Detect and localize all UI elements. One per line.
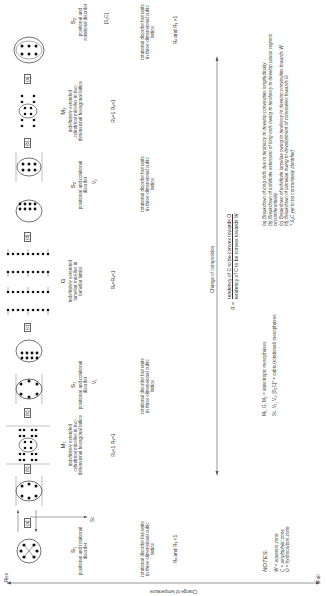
note-anisotropic: M₁, G, M₂ = anisotropic mesophases [262,236,268,416]
notes-phase-groups: M₁, G, M₂ = anisotropic mesophases Sᴄ, V… [262,236,277,416]
notes-title: NOTES: [262,550,268,572]
ratio-definition: R = tendency of C to be convex towards O… [226,213,239,310]
phase-caption-m2: indefinitely extended cylindrical micell… [68,80,84,142]
cylindrical-micelle-icon [6,88,50,134]
phase-label-s1: S₁ [70,530,77,570]
phase-caption-s2b: positional and rotational disorder [78,0,88,44]
transition-label: (c) [24,323,31,332]
micelle-ellipse-icon [12,152,46,182]
note-zone-o: O = hydrocarbon zone [285,482,291,572]
phase-lattice-s2b: rotational disorder but units in three-d… [140,4,156,60]
ratio-lhs: R = [230,302,236,310]
phase-caption-g: indefinitely extended lamellar micelles … [68,256,84,306]
temperature-fall-label: Fall [316,575,321,582]
equilibrium-arrow-icon [16,508,40,532]
transition-label: (d) [24,233,31,243]
phase-label-m1: M₁ [60,430,67,460]
notes-breakdowns: (a) Breakdown of long rods due to tenden… [262,6,296,226]
note-breakdown-b: (b) Breakdown of indefinite extension of… [268,6,279,226]
phase-ratio-s1: Rᵥ and Rᵧ <1 [172,524,178,574]
temperature-axis [0,580,327,586]
transition-label: (a) [24,75,31,85]
transition-label: (b) [24,465,31,475]
phase-ratio-m2: Rᵥ=1 Rᵧ>1 [110,96,116,126]
phase-label-g: G [60,266,67,296]
phase-caption-s1b: positional and rotational disorder [78,360,88,410]
temperature-axis-label: Change of temperature [150,589,197,594]
exit-label-v1: V₁ [92,379,97,384]
exit-label-s2c: [S₂C] [104,13,109,24]
phase-caption-s1: positional and rotational disorder [78,526,88,576]
phase-label-s2: S₂ [70,170,77,200]
phase-caption-m1: indefinitely extended cylindrical micell… [68,414,84,476]
temperature-rise-label: Rise [4,573,9,582]
note-footnote: * S₂C yet to be conclusively identified [290,6,296,226]
phase-label-s1b: S₁ [70,370,77,400]
exit-arrow-icon [30,514,90,520]
phase-ratio-s2b: Rᵥ and Rᵧ >1 [172,8,178,52]
phase-ratio-g: Rᵥ=Rᵧ=1 [110,260,116,300]
micelle-ellipse-icon [12,476,46,506]
micelle-sphere-icon [14,536,44,566]
micelle-ellipse-icon [12,374,46,404]
micelle-dome-icon [12,196,46,226]
notes-zones: W = aqueous zone C = amphiphilic zone O … [274,482,291,572]
phase-label-m2: M₂ [60,96,67,126]
phase-label-s2b: S₂ [70,6,77,36]
cylindrical-micelle-icon [6,422,50,468]
exit-label-v2: V₂ [92,179,97,184]
transition-label: (b) [24,409,31,419]
ratio-numerator: tendency of C to be convex towards O [226,214,233,299]
ratio-denominator: tendency of C to be convex towards W [233,213,239,299]
phase-diagram: Rise Fall Change of temperature S₁ posit… [0,0,327,596]
transition-label: (b) [24,139,31,149]
micelle-dome-icon [12,336,46,366]
exit-label-sc: Sᴄ [90,517,95,522]
micelle-sphere-icon [10,32,48,68]
phase-lattice-s1b: rotational disorder but units in three-d… [140,356,156,416]
phase-ratio-m1: Rᵥ<1 Rᵧ=1 [110,430,116,460]
phase-caption-s2: positional and rotational disorder [78,160,88,210]
note-cubic: Sᴄ, V₁, V₂, [S₂C]* = cubic (rotational) … [272,236,278,416]
lamellar-micelle-icon [2,246,54,316]
phase-lattice-s2: rotational disorder but units in three-d… [140,154,156,214]
phase-lattice-s1: rotational disorder but units in three-d… [140,520,156,578]
composition-axis-label: Change of composition [210,243,215,296]
